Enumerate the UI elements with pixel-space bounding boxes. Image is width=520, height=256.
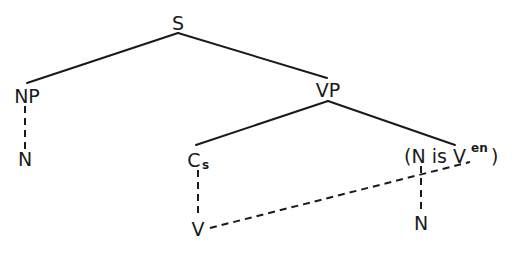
node-cs: C xyxy=(187,149,200,171)
node-passive-superscript: en xyxy=(471,141,488,155)
node-v: V xyxy=(192,218,205,240)
node-s: S xyxy=(172,12,184,34)
node-np-n: N xyxy=(18,148,32,170)
node-cs-subscript: s xyxy=(202,158,209,172)
edge-s-vp xyxy=(178,33,327,78)
edge-v-ven xyxy=(210,162,470,228)
syntax-tree-diagram: S NP N VP C s V (N is V en ) N xyxy=(0,0,520,256)
edge-vp-cs xyxy=(196,101,328,145)
node-passive-close: ) xyxy=(491,145,498,167)
node-vp: VP xyxy=(316,79,340,101)
edge-s-np xyxy=(27,33,178,83)
node-np: NP xyxy=(14,85,40,107)
node-passive: (N is V xyxy=(404,145,466,167)
edge-vp-passive xyxy=(328,101,455,145)
node-passive-n: N xyxy=(414,212,428,234)
